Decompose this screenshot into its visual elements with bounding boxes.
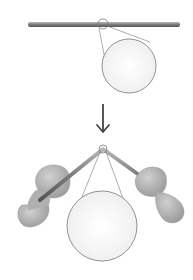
deformed-lattice-inset [67,191,137,261]
bent-rod-group [18,145,184,261]
diagram-canvas [0,0,193,280]
right-hand-icon [135,167,184,223]
straight-rod [28,22,180,27]
diagram-svg [0,0,193,280]
down-arrow-icon [97,104,109,132]
straight-rod-group [28,19,180,93]
regular-lattice-inset [102,39,156,93]
